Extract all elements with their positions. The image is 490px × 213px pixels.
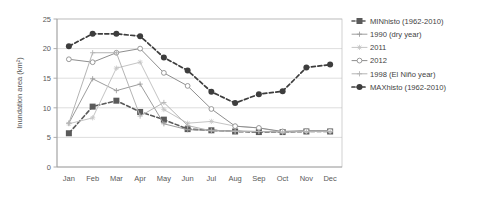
legend-label: MINhisto (1962-2010) xyxy=(370,17,444,26)
chart-canvas: 0510152025Inundation area (km²)JanFebMar… xyxy=(0,0,490,213)
series-marker xyxy=(357,84,363,90)
series-marker xyxy=(232,100,238,106)
series-marker xyxy=(161,107,166,112)
legend-label: 2011 xyxy=(370,43,386,52)
y-tick-label: 15 xyxy=(43,74,51,83)
legend-label: 1998 (El Niño year) xyxy=(370,70,436,79)
legend-item[interactable]: 1998 (El Niño year) xyxy=(352,70,436,79)
y-tick-label: 5 xyxy=(47,133,51,142)
x-tick-label: Feb xyxy=(86,174,99,183)
series-marker xyxy=(209,107,214,112)
series-marker xyxy=(161,54,167,60)
series-marker xyxy=(138,46,143,51)
series-marker xyxy=(113,31,119,37)
x-tick-label: Oct xyxy=(277,174,290,183)
series-marker xyxy=(138,82,143,87)
series-marker xyxy=(66,43,72,49)
series-line xyxy=(69,34,330,103)
plot-area-frame xyxy=(57,19,342,167)
series-2 xyxy=(66,76,332,134)
series-marker xyxy=(185,83,190,88)
inundation-area-line-chart: 0510152025Inundation area (km²)JanFebMar… xyxy=(0,0,490,213)
series-marker xyxy=(90,76,95,81)
legend-label: 2012 xyxy=(370,56,387,65)
series-marker xyxy=(256,91,262,97)
series-marker xyxy=(66,121,71,126)
series-marker xyxy=(66,130,72,136)
x-tick-label: Apr xyxy=(134,174,146,183)
y-axis-gridlines: 0510152025 xyxy=(43,15,342,172)
legend-label: MAXhisto (1962-2010) xyxy=(370,83,446,92)
series-marker xyxy=(161,70,166,75)
series-6 xyxy=(66,31,333,106)
x-tick-label: Sep xyxy=(252,174,265,183)
x-tick-label: Jan xyxy=(63,174,75,183)
x-tick-label: Dec xyxy=(323,174,337,183)
x-tick-label: Mar xyxy=(110,174,123,183)
series-marker xyxy=(357,18,363,24)
series-marker xyxy=(185,68,191,74)
series-marker xyxy=(208,89,214,95)
series-marker xyxy=(137,33,143,39)
x-tick-label: Nov xyxy=(300,174,314,183)
x-tick-label: Aug xyxy=(228,174,241,183)
series-marker xyxy=(357,32,362,37)
series-marker xyxy=(90,60,95,65)
series-marker xyxy=(114,66,119,71)
series-marker xyxy=(357,45,362,50)
series-marker xyxy=(90,115,95,120)
legend-item[interactable]: 2011 xyxy=(352,43,386,52)
series-marker xyxy=(90,104,96,110)
series-marker xyxy=(209,119,214,124)
x-tick-label: Jun xyxy=(182,174,194,183)
legend-label: 1990 (dry year) xyxy=(370,30,422,39)
legend-item[interactable]: MINhisto (1962-2010) xyxy=(352,17,444,26)
legend-item[interactable]: MAXhisto (1962-2010) xyxy=(352,83,446,92)
series-line xyxy=(69,49,330,132)
series-marker xyxy=(357,71,362,76)
y-tick-label: 0 xyxy=(47,163,51,172)
series-marker xyxy=(113,98,119,104)
series-marker xyxy=(90,31,96,37)
legend-item[interactable]: 2012 xyxy=(352,56,387,65)
y-tick-label: 10 xyxy=(43,104,51,113)
y-tick-label: 25 xyxy=(43,15,51,24)
y-axis-title: Inundation area (km²) xyxy=(15,57,24,129)
chart-legend: MINhisto (1962-2010)1990 (dry year)20112… xyxy=(352,17,446,92)
series-marker xyxy=(327,62,333,68)
series-marker xyxy=(66,57,71,62)
legend-item[interactable]: 1990 (dry year) xyxy=(352,30,422,39)
y-tick-label: 20 xyxy=(43,44,51,53)
x-tick-label: Jul xyxy=(207,174,217,183)
series-marker xyxy=(90,50,95,55)
series-marker xyxy=(114,88,119,93)
x-tick-label: May xyxy=(157,174,171,183)
series-marker xyxy=(357,58,362,63)
x-axis-labels: JanFebMarAprMayJunJulAugSepOctNovDec xyxy=(63,174,337,183)
series-line xyxy=(69,53,330,132)
series-marker xyxy=(303,65,309,71)
series-marker xyxy=(138,60,143,65)
series-marker xyxy=(233,124,238,129)
series-marker xyxy=(280,88,286,94)
